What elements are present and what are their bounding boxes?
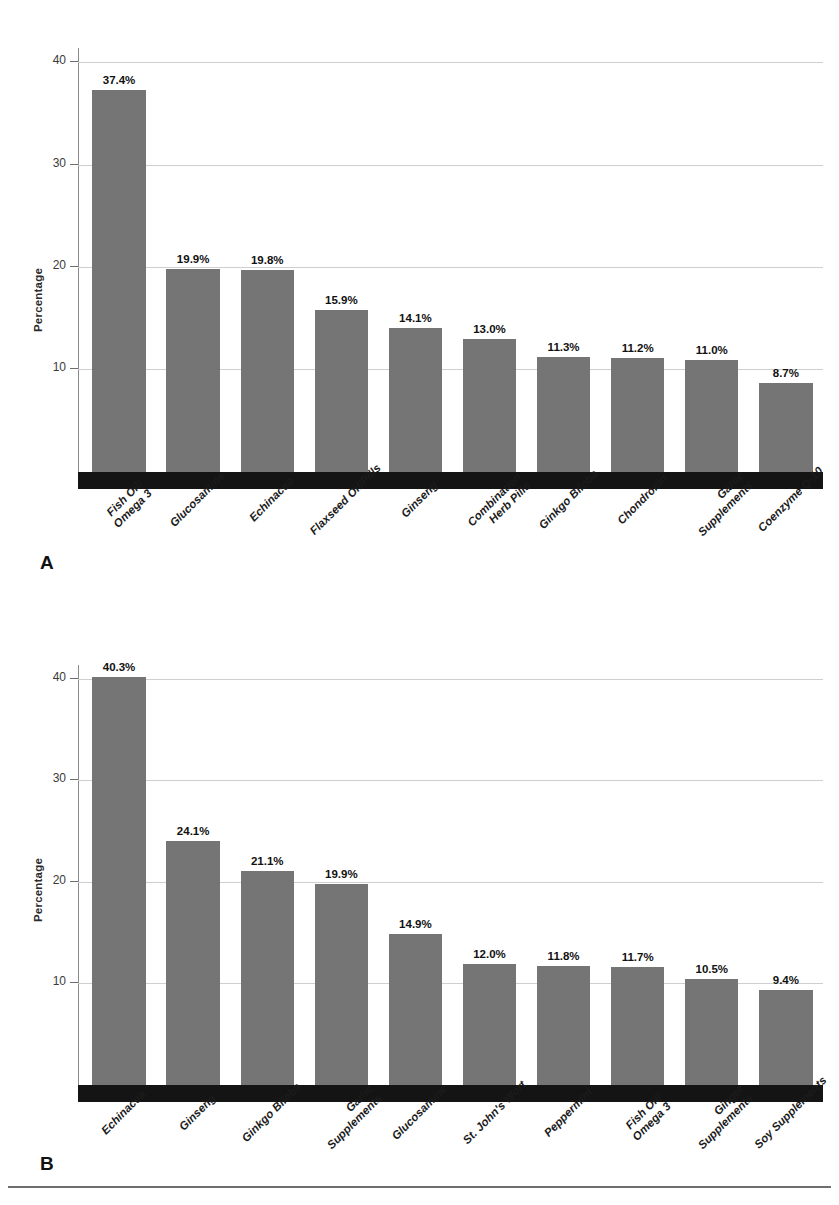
- y-tick-mark: [70, 164, 78, 165]
- bar-value-label: 12.0%: [473, 948, 506, 960]
- bar[interactable]: 37.4%: [92, 90, 145, 472]
- bar[interactable]: 15.9%: [315, 310, 368, 472]
- bar[interactable]: 11.7%: [611, 967, 664, 1085]
- bar-slot: 10.5%: [675, 665, 749, 1085]
- category-labels-a: Fish Oil/ Omega 3GlucosamineEchinaceaFla…: [78, 489, 823, 609]
- y-tick-mark: [70, 368, 78, 369]
- bottom-divider-rule: [8, 1186, 831, 1188]
- bar-slot: 14.9%: [378, 665, 452, 1085]
- bar[interactable]: 9.4%: [759, 990, 812, 1085]
- y-axis-title-a: Percentage: [32, 268, 44, 332]
- bar-value-label: 11.7%: [622, 951, 654, 963]
- bar-value-label: 10.5%: [695, 963, 728, 975]
- bar-value-label: 9.4%: [773, 974, 799, 986]
- panel-b: Percentage 10203040 40.3%24.1%21.1%19.9%…: [0, 600, 839, 1180]
- bar[interactable]: 11.0%: [685, 360, 738, 472]
- bar[interactable]: 24.1%: [166, 841, 219, 1085]
- bar-slot: 37.4%: [82, 48, 156, 472]
- bar[interactable]: 14.1%: [389, 328, 442, 472]
- bar[interactable]: 11.3%: [537, 357, 590, 472]
- baseline-band-b: [78, 1085, 823, 1102]
- bar[interactable]: 8.7%: [759, 383, 812, 472]
- category-labels-b: EchinaceaGinsengGinkgo BilobaGarlic Supp…: [78, 1102, 823, 1205]
- bar-value-label: 24.1%: [177, 825, 210, 837]
- y-tick-label: 40: [53, 53, 66, 67]
- bar-value-label: 14.9%: [399, 918, 432, 930]
- y-tick-label: 20: [53, 258, 66, 272]
- bar[interactable]: 10.5%: [685, 979, 738, 1085]
- bar-value-label: 14.1%: [399, 312, 432, 324]
- bar-slot: 11.2%: [601, 48, 675, 472]
- bar-slot: 11.7%: [601, 665, 675, 1085]
- bar[interactable]: 19.9%: [315, 884, 368, 1085]
- bar-value-label: 19.8%: [251, 254, 284, 266]
- bar-value-label: 19.9%: [177, 253, 210, 265]
- bar-value-label: 21.1%: [251, 855, 284, 867]
- bar-slot: 40.3%: [82, 665, 156, 1085]
- panel-letter-b: B: [40, 1153, 54, 1175]
- bar-slot: 9.4%: [749, 665, 823, 1085]
- bar[interactable]: 21.1%: [241, 871, 294, 1085]
- bar-value-label: 11.8%: [548, 950, 580, 962]
- bar[interactable]: 40.3%: [92, 677, 145, 1085]
- bar-value-label: 19.9%: [325, 868, 358, 880]
- bar-slot: 24.1%: [156, 665, 230, 1085]
- bar-value-label: 8.7%: [773, 367, 799, 379]
- bar[interactable]: 19.9%: [166, 269, 219, 472]
- y-tick-label: 40: [53, 670, 66, 684]
- bar-slot: 8.7%: [749, 48, 823, 472]
- bar-value-label: 11.3%: [548, 341, 580, 353]
- bar-series-b: 40.3%24.1%21.1%19.9%14.9%12.0%11.8%11.7%…: [78, 665, 823, 1085]
- bar-value-label: 15.9%: [325, 294, 358, 306]
- y-tick-label: 30: [53, 156, 66, 170]
- bar-value-label: 11.0%: [696, 344, 728, 356]
- y-tick-label: 10: [53, 360, 66, 374]
- y-tick-mark: [70, 982, 78, 983]
- panel-a: Percentage 10203040 37.4%19.9%19.8%15.9%…: [0, 0, 839, 600]
- bar-value-label: 40.3%: [103, 661, 136, 673]
- bar[interactable]: 11.8%: [537, 966, 590, 1085]
- y-tick-label: 20: [53, 873, 66, 887]
- bar-slot: 11.8%: [527, 665, 601, 1085]
- bar[interactable]: 14.9%: [389, 934, 442, 1085]
- bar-slot: 19.9%: [156, 48, 230, 472]
- y-tick-mark: [70, 678, 78, 679]
- y-tick-mark: [70, 881, 78, 882]
- y-axis-title-b: Percentage: [32, 858, 44, 922]
- bar-slot: 15.9%: [304, 48, 378, 472]
- bar-slot: 11.3%: [527, 48, 601, 472]
- bar-slot: 14.1%: [378, 48, 452, 472]
- bar[interactable]: 11.2%: [611, 358, 664, 472]
- baseline-band-a: [78, 472, 823, 489]
- bar[interactable]: 13.0%: [463, 339, 516, 472]
- bar-value-label: 13.0%: [473, 323, 506, 335]
- y-tick-label: 10: [53, 974, 66, 988]
- y-tick-mark: [70, 61, 78, 62]
- y-tick-label: 30: [53, 771, 66, 785]
- bar-slot: 13.0%: [452, 48, 526, 472]
- bar-series-a: 37.4%19.9%19.8%15.9%14.1%13.0%11.3%11.2%…: [78, 48, 823, 472]
- y-tick-mark: [70, 266, 78, 267]
- bar[interactable]: 12.0%: [463, 964, 516, 1085]
- bar-slot: 19.9%: [304, 665, 378, 1085]
- y-tick-mark: [70, 779, 78, 780]
- bar-value-label: 37.4%: [103, 74, 136, 86]
- bar-slot: 11.0%: [675, 48, 749, 472]
- bar[interactable]: 19.8%: [241, 270, 294, 472]
- bar-slot: 19.8%: [230, 48, 304, 472]
- bar-value-label: 11.2%: [622, 342, 654, 354]
- plot-area-a: 10203040 37.4%19.9%19.8%15.9%14.1%13.0%1…: [78, 48, 823, 472]
- plot-area-b: 10203040 40.3%24.1%21.1%19.9%14.9%12.0%1…: [78, 665, 823, 1085]
- panel-letter-a: A: [40, 552, 54, 574]
- figure-two-bar-charts: Percentage 10203040 37.4%19.9%19.8%15.9%…: [0, 0, 839, 1205]
- bar-slot: 21.1%: [230, 665, 304, 1085]
- bar-slot: 12.0%: [452, 665, 526, 1085]
